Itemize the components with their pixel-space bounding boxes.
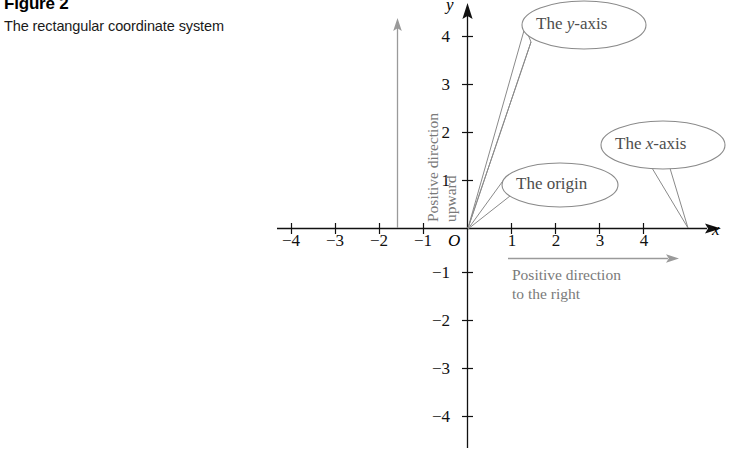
y-tick-label-3: 3 bbox=[428, 75, 450, 95]
y-tick-label-4: 4 bbox=[428, 27, 450, 47]
positive-direction-up-arrow bbox=[393, 18, 402, 228]
x-tick-label-3: 3 bbox=[580, 231, 620, 251]
y-tick-label--4: −4 bbox=[418, 407, 450, 427]
callout-x-prefix: The bbox=[615, 134, 646, 153]
x-tick-label-2: 2 bbox=[536, 231, 576, 251]
y-tick-label--3: −3 bbox=[418, 359, 450, 379]
positive-direction-right-line1: Positive direction bbox=[512, 266, 621, 284]
y-tick-label--1: −1 bbox=[418, 263, 450, 283]
x-axis-callout-label: The x-axis bbox=[615, 134, 686, 154]
x-tick-label-1: 1 bbox=[492, 231, 532, 251]
callout-y-prefix: The bbox=[536, 14, 567, 33]
origin-callout-balloon bbox=[468, 163, 618, 229]
coordinate-plane bbox=[0, 0, 741, 454]
coordinate-system-svg bbox=[0, 0, 741, 454]
y-tick-label--2: −2 bbox=[418, 311, 450, 331]
origin-callout-label: The origin bbox=[516, 174, 587, 194]
positive-direction-upward-line2: upward bbox=[442, 176, 460, 223]
positive-direction-right-line2: to the right bbox=[512, 285, 580, 303]
x-tick-label--3: −3 bbox=[315, 231, 355, 251]
x-tick-label--4: −4 bbox=[271, 231, 311, 251]
x-tick-label--2: −2 bbox=[359, 231, 399, 251]
callout-x-suffix: -axis bbox=[653, 134, 686, 153]
y-axis-name-label: y bbox=[446, 0, 454, 15]
x-tick-label-4: 4 bbox=[624, 231, 664, 251]
positive-direction-upward-line1: Positive direction bbox=[424, 113, 442, 222]
callout-y-suffix: -axis bbox=[574, 14, 607, 33]
x-tick-label--1: −1 bbox=[403, 231, 443, 251]
positive-direction-right-arrow bbox=[508, 254, 679, 263]
origin-label: O bbox=[448, 231, 460, 251]
y-axis-callout-label: The y-axis bbox=[536, 14, 607, 34]
x-axis-name-label: x bbox=[712, 220, 720, 240]
